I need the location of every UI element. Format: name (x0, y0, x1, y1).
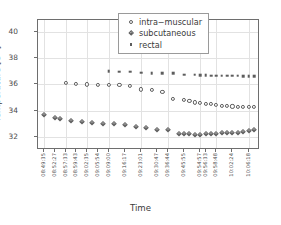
x-axis-tick (108, 149, 109, 152)
x-axis-title: Time (0, 203, 281, 213)
data-point (150, 72, 153, 75)
x-axis-tick-label: 08:59:43 (72, 153, 78, 177)
x-axis-tick-label: 08:49:35 (40, 153, 46, 177)
x-axis-tick (75, 149, 76, 152)
x-axis-tick (167, 149, 168, 152)
y-axis-tick (34, 110, 37, 111)
x-axis-tick (65, 149, 66, 152)
data-point (172, 72, 175, 75)
chart-legend: intra−muscular subcutaneous rectal (118, 13, 209, 54)
y-axis-title: Temperature [C o] (0, 9, 2, 159)
x-axis-tick (199, 149, 200, 152)
x-axis-tick-label: 09:05:54 (94, 153, 100, 177)
x-axis-tick (54, 149, 55, 152)
x-axis-tick-label: 08:52:27 (51, 153, 57, 177)
y-axis-tick-label: 40 (9, 26, 18, 35)
data-point (231, 75, 234, 78)
x-axis-tick (86, 149, 87, 152)
x-axis-tick-label: 09:16:17 (121, 153, 127, 177)
legend-item: subcutaneous (123, 28, 202, 40)
data-point (107, 70, 110, 73)
open-circle-icon (123, 20, 139, 24)
x-axis-tick-label: 09:02:35 (83, 153, 89, 177)
x-axis-tick (215, 149, 216, 152)
data-point (226, 74, 229, 77)
gridline-horizontal (38, 137, 258, 138)
data-point (183, 73, 186, 76)
x-axis-tick-label: 10:06:18 (245, 153, 251, 177)
y-axis-title-main: Temperature [C (0, 53, 2, 122)
data-point (242, 75, 245, 78)
y-axis-tick-label: 36 (9, 79, 18, 88)
gridline-horizontal (38, 111, 258, 112)
y-axis-tick (34, 136, 37, 137)
y-axis-tick-label: 32 (9, 131, 18, 140)
data-point (237, 75, 240, 78)
x-axis-tick-label: 09:36:44 (164, 153, 170, 177)
data-point (129, 71, 132, 74)
gridline-horizontal (38, 84, 258, 85)
x-axis-tick-label: 08:57:33 (62, 153, 68, 177)
x-axis-tick (124, 149, 125, 152)
x-axis-tick (205, 149, 206, 152)
x-axis-tick (183, 149, 184, 152)
y-axis-tick (34, 31, 37, 32)
x-axis-tick (231, 149, 232, 152)
x-axis-tick (97, 149, 98, 152)
data-point (247, 75, 250, 78)
legend-label: subcutaneous (139, 28, 196, 38)
data-point (204, 74, 207, 77)
x-axis-tick-label: 09:23:01 (137, 153, 143, 177)
legend-label: intra−muscular (139, 17, 202, 27)
filled-square-icon (123, 43, 139, 46)
data-point (253, 75, 256, 78)
legend-label: rectal (139, 40, 162, 50)
gridline-vertical (44, 20, 45, 148)
gridline-horizontal (38, 58, 258, 59)
x-axis-tick-label: 09:56:33 (202, 153, 208, 177)
x-axis-tick (140, 149, 141, 152)
legend-item: intra−muscular (123, 16, 202, 28)
x-axis-tick-label: 09:58:48 (212, 153, 218, 177)
data-point (118, 70, 121, 73)
data-point (161, 72, 164, 75)
data-point (199, 74, 202, 77)
x-axis-tick-label: 09:30:47 (153, 153, 159, 177)
data-point (140, 71, 143, 74)
y-axis-tick (34, 83, 37, 84)
x-axis-tick (248, 149, 249, 152)
x-axis-tick (43, 149, 44, 152)
y-axis-tick-label: 38 (9, 53, 18, 62)
data-point (193, 74, 196, 77)
y-axis-title-end: ] (0, 46, 2, 49)
x-axis-tick-label: 09:09:00 (105, 153, 111, 177)
open-diamond-icon (123, 31, 139, 35)
data-point (210, 74, 213, 77)
data-point (220, 74, 223, 77)
y-axis-tick-label: 34 (9, 105, 18, 114)
data-point (215, 74, 218, 77)
x-axis-tick (156, 149, 157, 152)
x-axis-tick-label: 10:02:24 (228, 153, 234, 177)
chart-figure: Temperature [C o] 323436384008:49:3508:5… (0, 0, 281, 225)
x-axis-tick-label: 09:45:55 (180, 153, 186, 177)
legend-item: rectal (123, 39, 202, 51)
y-axis-tick (34, 57, 37, 58)
gridline-vertical (216, 20, 217, 148)
